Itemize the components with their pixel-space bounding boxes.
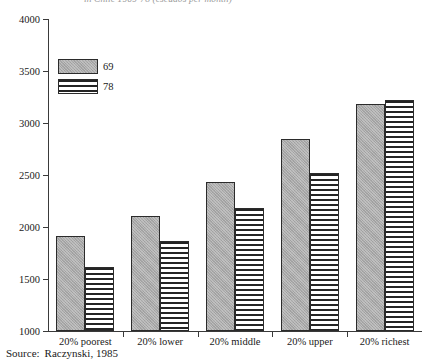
bar-78-20-lower — [160, 241, 189, 331]
category-label: 20% richest — [347, 336, 422, 348]
legend-swatch-78 — [58, 79, 98, 94]
y-tick-mark — [43, 71, 49, 72]
category-label: 20% lower — [123, 336, 198, 348]
y-tick-mark — [43, 227, 49, 228]
bar-78-20-upper — [310, 173, 339, 331]
y-tick-mark — [43, 19, 49, 20]
y-tick-label: 3500 — [0, 66, 40, 77]
source-text: Raczynski, 1985 — [45, 347, 118, 359]
bar-chart-figure: 1000150020002500300035004000 20% poorest… — [0, 0, 428, 363]
chart-legend: 6978 — [58, 59, 138, 99]
y-tick-mark — [43, 331, 49, 332]
bar-group — [356, 19, 414, 331]
bar-78-20-middle — [235, 208, 264, 331]
source-label: Source: — [6, 347, 40, 359]
y-tick-label: 3000 — [0, 118, 40, 129]
legend-item-78: 78 — [58, 79, 138, 96]
y-tick-label: 2500 — [0, 170, 40, 181]
bar-69-20-richest — [356, 104, 385, 331]
y-tick-mark — [43, 279, 49, 280]
bar-group — [281, 19, 339, 331]
y-tick-label: 4000 — [0, 14, 40, 25]
legend-label-69: 69 — [103, 61, 114, 73]
legend-item-69: 69 — [58, 59, 138, 76]
y-tick-label: 1500 — [0, 274, 40, 285]
bar-group — [131, 19, 189, 331]
bar-69-20-upper — [281, 139, 310, 331]
bar-69-20-lower — [131, 216, 160, 331]
bar-69-20-middle — [206, 182, 235, 331]
source-note: Source:Raczynski, 1985 — [6, 347, 118, 360]
x-axis-line — [48, 331, 422, 332]
bar-78-20-richest — [385, 100, 414, 331]
y-tick-label: 2000 — [0, 222, 40, 233]
y-tick-mark — [43, 123, 49, 124]
legend-label-78: 78 — [103, 81, 114, 93]
category-label: 20% upper — [272, 336, 347, 348]
y-tick-label: 1000 — [0, 326, 40, 337]
bar-69-20-poorest — [56, 236, 85, 331]
bar-group — [206, 19, 264, 331]
legend-swatch-69 — [58, 59, 98, 74]
bar-78-20-poorest — [85, 267, 114, 331]
y-tick-mark — [43, 175, 49, 176]
category-label: 20% middle — [198, 336, 273, 348]
